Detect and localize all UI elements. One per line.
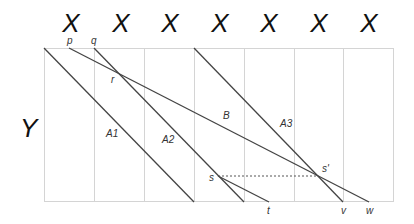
- line-B: [69, 48, 369, 202]
- line-label-A3: A3: [280, 118, 292, 130]
- point-label-s-prime: s': [322, 163, 329, 175]
- point-label-t: t: [267, 205, 270, 217]
- line-A3: [194, 48, 343, 202]
- line-label-A2: A2: [162, 134, 174, 146]
- point-label-p: p: [67, 35, 73, 47]
- diagram-canvas: [0, 0, 414, 224]
- point-label-q: q: [91, 35, 97, 47]
- line-A1: [44, 48, 194, 202]
- line-st: [218, 176, 269, 202]
- point-label-r: r: [111, 74, 114, 86]
- line-label-B: B: [223, 110, 230, 122]
- point-label-w: w: [366, 205, 373, 217]
- line-A2: [94, 48, 244, 202]
- point-label-s: s: [209, 172, 214, 184]
- line-label-A1: A1: [106, 128, 118, 140]
- point-label-v: v: [341, 205, 346, 217]
